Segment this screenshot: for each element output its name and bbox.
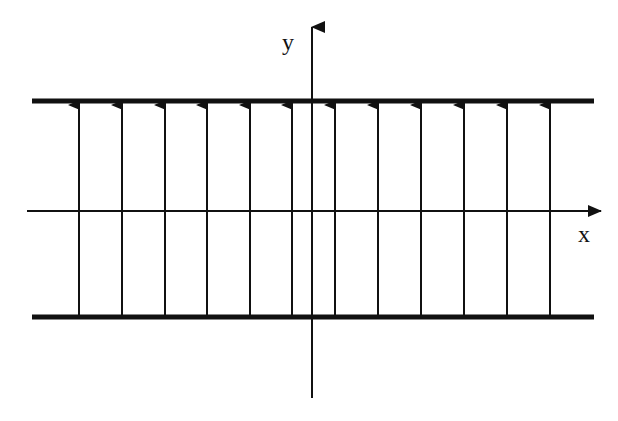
diagram-canvas [0,0,618,421]
uniform-field-diagram: y x [0,0,618,421]
y-axis-label: y [282,30,294,54]
x-axis-label: x [578,222,590,246]
